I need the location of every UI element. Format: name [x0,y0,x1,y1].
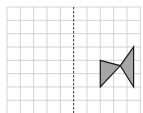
bowtie-shape [100,47,133,87]
reflection-diagram [0,0,143,113]
